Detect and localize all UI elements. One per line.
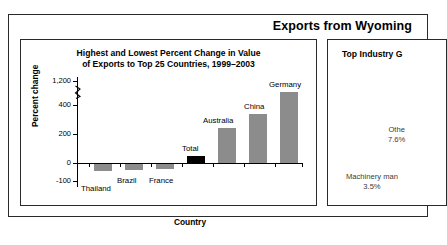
bar-australia: [218, 128, 236, 163]
bar-total: [187, 156, 205, 163]
x-axis-title: Country: [77, 217, 303, 227]
bar-label-australia: Australia: [203, 117, 233, 125]
bar-brazil: [125, 164, 143, 170]
y-tick: [73, 181, 78, 182]
bar-france: [156, 164, 174, 169]
pie-chart-panel: Top Industry G Othe 7.6% Machinery man 3…: [327, 39, 447, 206]
bar-label-thailand: Thailand: [81, 185, 111, 193]
bar-label-brazil: Brazil: [117, 177, 137, 185]
pie-slice-name: Othe: [388, 125, 405, 135]
bar-thailand: [94, 164, 112, 171]
bar-chart-title-line1: Highest and Lowest Percent Change in Val…: [21, 48, 316, 59]
bar-chart-title-line2: of Exports to Top 25 Countries, 1999–200…: [21, 59, 316, 70]
pie-slice-label-machinery: Machinery man 3.5%: [346, 172, 398, 192]
bar-label-germany: Germany: [269, 81, 301, 89]
bar-chart-panel: Highest and Lowest Percent Change in Val…: [20, 39, 317, 206]
y-tick-label: 1,200: [52, 77, 71, 85]
x-tick: [213, 163, 214, 167]
x-tick: [302, 163, 303, 167]
y-tick: [73, 163, 78, 164]
x-tick: [120, 163, 121, 167]
axis-break-icon: [74, 85, 83, 99]
pie-slice-name: Machinery man: [346, 172, 398, 182]
bar-label-china: China: [244, 103, 264, 111]
y-tick-label: -100: [56, 177, 71, 185]
pie-slice-label-other: Othe 7.6%: [388, 125, 405, 145]
x-tick: [244, 163, 245, 167]
y-tick: [73, 134, 78, 135]
y-axis-title: Percent change: [31, 65, 39, 127]
page-title: Exports from Wyoming: [9, 19, 412, 33]
y-tick: [73, 105, 78, 106]
x-tick: [182, 163, 183, 167]
bar-germany: [280, 92, 298, 163]
report-frame: Exports from Wyoming Highest and Lowest …: [8, 14, 428, 217]
bar-label-total: Total: [182, 145, 198, 153]
bar-chart-plot-area: Percent change 1,200 400 200 0: [77, 77, 303, 187]
pie-chart-title: Top Industry G: [342, 49, 402, 59]
bar-china: [249, 114, 267, 163]
bar-label-france: France: [149, 177, 173, 185]
y-tick-label: 0: [67, 159, 71, 167]
bar-chart-title: Highest and Lowest Percent Change in Val…: [21, 48, 316, 70]
pie-slice-value: 3.5%: [346, 182, 398, 192]
x-tick: [275, 163, 276, 167]
y-tick-label: 200: [58, 130, 71, 138]
x-tick: [89, 163, 90, 167]
y-tick-label: 400: [58, 101, 71, 109]
x-tick: [151, 163, 152, 167]
pie-slice-value: 7.6%: [388, 135, 405, 145]
y-tick: [73, 81, 78, 82]
